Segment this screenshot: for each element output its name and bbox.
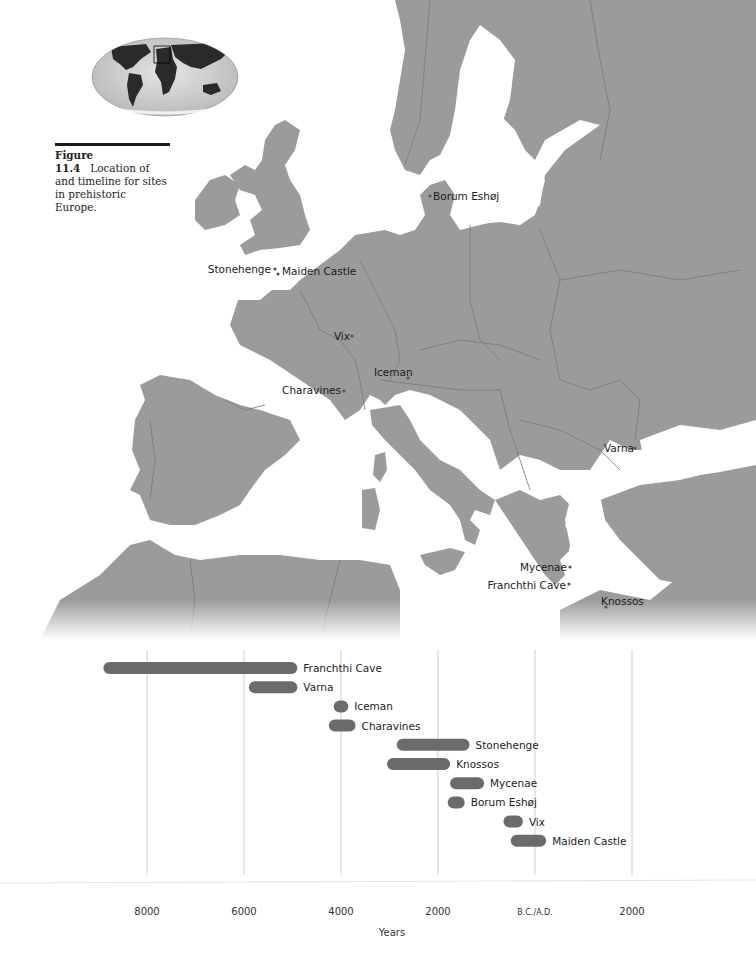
land-iberia — [130, 375, 300, 525]
site-marker-iceman: Iceman — [374, 366, 413, 380]
timeline-bar-label: Iceman — [354, 700, 393, 712]
site-dot — [276, 272, 279, 275]
site-dot — [350, 334, 353, 337]
site-dot — [428, 194, 431, 197]
world-locator-globe — [91, 37, 239, 117]
site-marker-charavines: Charavines — [282, 384, 345, 396]
land-ireland — [195, 175, 240, 230]
x-tick-label: B.C./A.D. — [517, 908, 552, 917]
timeline-bar-label: Varna — [303, 681, 333, 693]
timeline-row: Mycenae — [450, 777, 537, 789]
timeline-row: Maiden Castle — [511, 835, 627, 847]
site-dot — [342, 389, 345, 392]
x-tick-label: 2000 — [619, 906, 644, 917]
x-tick-label: 6000 — [231, 906, 256, 917]
site-marker-maiden-castle: Maiden Castle — [276, 265, 356, 277]
site-dot — [568, 565, 571, 568]
x-tick-label: 2000 — [425, 906, 450, 917]
timeline-row: Iceman — [334, 700, 393, 712]
timeline-bars: Franchthi CaveVarnaIcemanCharavinesStone… — [103, 662, 626, 847]
figure-number: Figure 11.4 — [55, 149, 93, 174]
site-label: Knossos — [601, 595, 644, 607]
site-label: Maiden Castle — [282, 265, 356, 277]
site-dot — [273, 267, 276, 270]
timeline-chart: Franchthi CaveVarnaIcemanCharavinesStone… — [0, 640, 756, 978]
timeline-bar-label: Knossos — [456, 758, 499, 770]
site-dot — [567, 582, 570, 585]
timeline-bar — [249, 681, 298, 693]
site-label: Franchthi Cave — [487, 579, 566, 591]
timeline-row: Franchthi Cave — [103, 662, 382, 674]
timeline-bar — [103, 662, 297, 674]
timeline-bar-label: Mycenae — [490, 777, 537, 789]
timeline-row: Charavines — [329, 720, 421, 732]
timeline-bar — [503, 816, 522, 828]
x-tick-label: 8000 — [134, 906, 159, 917]
timeline-row: Vix — [503, 816, 544, 828]
timeline-bar-label: Maiden Castle — [552, 835, 626, 847]
land-sicily — [420, 548, 465, 575]
land-sardinia — [362, 488, 380, 530]
site-marker-mycenae: Mycenae — [520, 561, 572, 573]
timeline-bar — [448, 796, 465, 808]
timeline-row: Varna — [249, 681, 334, 693]
caption-rule — [55, 143, 170, 146]
timeline-row: Knossos — [387, 758, 499, 770]
caption-text: Figure 11.4 Location of and timeline for… — [55, 149, 170, 214]
site-marker-borum-esh-j: Borum Eshøj — [428, 190, 499, 202]
site-label: Stonehenge — [208, 263, 271, 275]
timeline-bar — [334, 700, 349, 712]
timeline-tick-labels: 8000600040002000B.C./A.D.2000 — [134, 906, 644, 917]
aegean-sea — [565, 495, 605, 590]
timeline-bar-label: Charavines — [362, 720, 421, 732]
land-corsica — [373, 452, 387, 482]
timeline-bar — [397, 739, 470, 751]
site-label: Vix — [334, 330, 350, 342]
site-marker-varna: Varna — [604, 442, 637, 454]
site-label: Mycenae — [520, 561, 567, 573]
x-axis-title: Years — [378, 927, 405, 938]
timeline-bar — [329, 720, 356, 732]
site-label: Iceman — [374, 366, 413, 378]
site-label: Varna — [604, 442, 634, 454]
timeline-bar — [387, 758, 450, 770]
figure-caption: Figure 11.4 Location of and timeline for… — [55, 143, 170, 214]
timeline-row: Borum Eshøj — [448, 796, 537, 808]
site-marker-franchthi-cave: Franchthi Cave — [487, 579, 570, 591]
land-anatolia — [600, 460, 756, 585]
land-great-britain — [230, 120, 310, 255]
timeline-bar-label: Borum Eshøj — [471, 796, 537, 808]
site-marker-knossos: Knossos — [601, 595, 644, 609]
timeline-bar — [450, 777, 484, 789]
timeline-bar — [511, 835, 546, 847]
timeline-bar-label: Stonehenge — [476, 739, 539, 751]
site-label: Charavines — [282, 384, 341, 396]
timeline-row: Stonehenge — [397, 739, 539, 751]
site-marker-stonehenge: Stonehenge — [208, 263, 277, 275]
timeline-baseline — [0, 880, 756, 883]
timeline-bar-label: Vix — [529, 816, 545, 828]
x-tick-label: 4000 — [328, 906, 353, 917]
timeline-bar-label: Franchthi Cave — [303, 662, 382, 674]
site-label: Borum Eshøj — [433, 190, 499, 202]
